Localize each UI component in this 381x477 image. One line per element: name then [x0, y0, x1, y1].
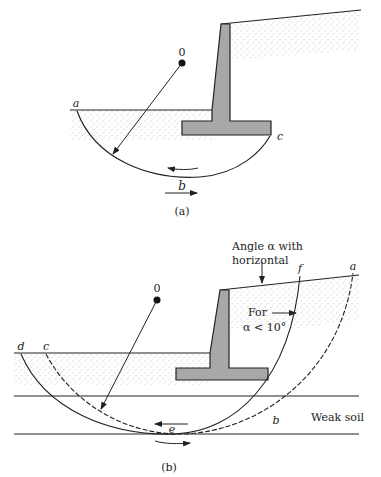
- point-b-label-b: b: [272, 414, 279, 427]
- angle-annotation-line1: Angle α with: [231, 240, 303, 253]
- figure-a: 0 a b c (a): [70, 10, 361, 218]
- point-a-label: a: [73, 97, 80, 110]
- caption-a: (a): [174, 205, 189, 218]
- for-annotation-line2: α < 10°: [243, 321, 286, 334]
- radius-arrow-a: [113, 63, 182, 154]
- point-a-label-b: a: [350, 260, 357, 273]
- point-f-label: f: [297, 262, 304, 275]
- for-annotation-line1: For: [248, 306, 268, 319]
- caption-b: (b): [161, 461, 177, 474]
- angle-annotation-line2: horizontal: [232, 254, 289, 267]
- figure-b: 0 Angle α with horizontal For α < 10° f …: [14, 240, 364, 474]
- point-c-label: c: [277, 130, 283, 143]
- center-label-b: 0: [154, 282, 161, 295]
- center-label-a: 0: [179, 46, 186, 59]
- point-b-label: b: [178, 179, 186, 193]
- point-e-label: e: [169, 423, 176, 436]
- arrow-left-a: [168, 168, 198, 170]
- diagram-canvas: 0 a b c (a) 0: [0, 0, 381, 477]
- weak-soil-label: Weak soil: [311, 411, 364, 424]
- backfill-soil-a: [230, 10, 360, 60]
- point-c-label-b: c: [43, 340, 49, 353]
- arrow-right-b: [155, 441, 190, 444]
- point-d-label: d: [17, 340, 24, 353]
